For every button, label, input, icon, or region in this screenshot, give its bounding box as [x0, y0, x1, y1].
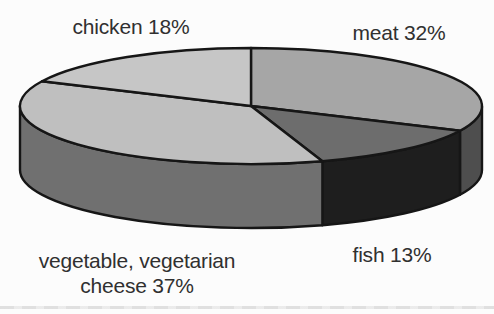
label-vegetable-line1: vegetable, vegetarian: [39, 249, 236, 272]
chart-canvas: chicken 18% meat 32% fish 13% vegetable,…: [0, 0, 494, 314]
scan-artifact-line: [0, 306, 494, 309]
label-vegetable: vegetable, vegetarian cheese 37%: [39, 248, 236, 298]
label-chicken: chicken 18%: [73, 14, 190, 39]
label-meat: meat 32%: [353, 20, 446, 45]
label-fish: fish 13%: [353, 242, 432, 267]
label-vegetable-line2: cheese 37%: [80, 274, 194, 297]
